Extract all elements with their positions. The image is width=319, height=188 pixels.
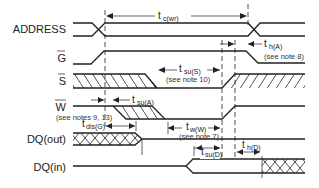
timing-th-a: t h(A) (see note 8)	[220, 38, 305, 61]
svg-text:c(wr): c(wr)	[163, 15, 179, 23]
svg-text:t: t	[158, 10, 161, 21]
timing-tc-wr: t c(wr)	[106, 9, 247, 23]
svg-text:t: t	[201, 146, 204, 157]
timing-tsu-a: t su(A)	[91, 94, 154, 107]
timing-tsu-s: t su(S) (see note 10)	[158, 63, 220, 84]
svg-text:S: S	[59, 75, 66, 87]
signal-label-w: W	[55, 100, 67, 113]
svg-text:dis(G): dis(G)	[86, 123, 105, 131]
timing-th-d: t h(D)	[237, 139, 261, 155]
write-cycle-timing-diagram: ADDRESS G S W DQ(out) DQ(in)	[0, 0, 319, 188]
svg-text:su(A): su(A)	[137, 99, 154, 107]
svg-text:t: t	[242, 139, 245, 150]
signal-label-address: ADDRESS	[13, 23, 66, 35]
svg-text:(see note 7): (see note 7)	[179, 132, 220, 141]
svg-text:t: t	[82, 118, 85, 129]
svg-text:t: t	[186, 121, 189, 132]
svg-text:t: t	[264, 38, 267, 49]
svg-text:t: t	[179, 63, 182, 74]
signal-label-s: S	[58, 74, 66, 87]
svg-text:(see note 8): (see note 8)	[264, 52, 305, 61]
svg-text:h(D): h(D)	[247, 144, 261, 152]
svg-text:(see note 10): (see note 10)	[166, 75, 211, 84]
signal-label-g: G	[57, 51, 66, 64]
svg-text:h(A): h(A)	[269, 43, 282, 51]
svg-text:t: t	[132, 94, 135, 105]
svg-text:W: W	[56, 101, 67, 113]
signal-label-dq-in: DQ(in)	[34, 161, 66, 173]
svg-text:G: G	[57, 52, 66, 64]
svg-text:su(D): su(D)	[205, 151, 222, 159]
signal-label-dq-out: DQ(out)	[27, 133, 66, 145]
timing-tsu-d: t su(D)	[194, 145, 222, 159]
waveform-address	[73, 23, 305, 36]
timing-tw-w: t w(W) (see note 7)	[168, 121, 220, 141]
